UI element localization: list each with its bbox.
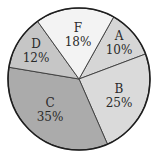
pie-chart: A10%B25%C35%D12%F18% (0, 0, 155, 152)
slice-percent-f: 18% (65, 35, 92, 49)
slice-name-d: D (31, 37, 41, 51)
slice-percent-a: 10% (106, 43, 133, 57)
slice-name-a: A (114, 29, 124, 43)
slice-name-b: B (115, 82, 124, 96)
slice-name-f: F (74, 21, 82, 35)
slice-percent-d: 12% (23, 51, 50, 65)
slice-percent-b: 25% (106, 96, 133, 110)
slice-name-c: C (45, 96, 54, 110)
slice-percent-c: 35% (37, 110, 64, 124)
